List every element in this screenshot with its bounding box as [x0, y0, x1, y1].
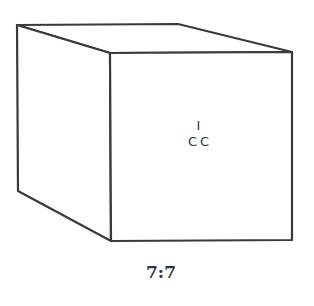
- figure-caption: 7:7: [0, 262, 314, 282]
- front-face-label: I CC: [155, 118, 245, 150]
- front-face-label-line1: I: [155, 118, 245, 134]
- front-face-label-line2: CC: [155, 134, 245, 150]
- cube-figure: I CC 7:7: [0, 0, 314, 306]
- cube-drawing: [0, 0, 314, 306]
- cube-left-face: [17, 25, 111, 241]
